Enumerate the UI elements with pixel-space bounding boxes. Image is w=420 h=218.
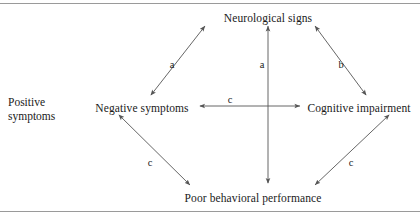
side-note-line-1: Positive: [8, 96, 55, 110]
figure-container: Positive symptoms Neurological signs Neg…: [0, 0, 420, 218]
edge-label-a-left: a: [170, 59, 175, 70]
edge-label-c-left: c: [148, 157, 153, 168]
edge-label-b-right: b: [338, 59, 343, 70]
edge-cognitive-impairment-to-poor-behavioral-performance: [315, 115, 389, 185]
node-negative-symptoms: Negative symptoms: [95, 102, 188, 114]
node-poor-behavioral-performance: Poor behavioral performance: [185, 192, 322, 204]
node-cognitive-impairment: Cognitive impairment: [307, 102, 410, 114]
edge-negative-symptoms-to-poor-behavioral-performance: [119, 115, 190, 185]
edge-label-c-right: c: [349, 157, 354, 168]
edge-negative-symptoms-to-neurological-signs: [151, 26, 205, 95]
side-note-positive-symptoms: Positive symptoms: [8, 96, 55, 123]
edge-label-c-middle: c: [228, 94, 233, 105]
node-neurological-signs: Neurological signs: [224, 12, 312, 24]
side-note-line-2: symptoms: [8, 110, 55, 124]
edge-label-a-center: a: [260, 59, 265, 70]
